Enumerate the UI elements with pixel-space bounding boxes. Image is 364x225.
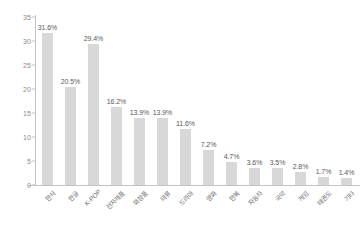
bar[interactable] [65, 87, 77, 185]
x-axis-tick-label: 태권도 [314, 188, 334, 208]
x-axis-tick-label: 국악 [272, 188, 287, 203]
bar-column[interactable]: 3.5% [272, 17, 284, 185]
bar-value-label: 16.2% [107, 98, 126, 105]
bar[interactable] [111, 107, 123, 185]
y-axis-tick-mark [32, 89, 35, 90]
bar-column[interactable]: 3.6% [249, 17, 261, 185]
bar-column[interactable]: 11.6% [180, 17, 192, 185]
bar-value-label: 13.9% [130, 109, 149, 116]
y-axis-tick-labels: 05101520253035 [0, 0, 31, 225]
x-axis-tick-label: K-POP [83, 188, 102, 207]
bar-value-label: 7.2% [201, 141, 217, 148]
bar-value-label: 11.6% [176, 120, 195, 127]
bar-value-label: 3.5% [270, 159, 286, 166]
x-axis-line [28, 185, 360, 186]
x-axis-tick-label: 한글 [65, 188, 80, 203]
x-axis-tick-label: 드라마 [176, 188, 196, 208]
y-axis-tick-mark [32, 113, 35, 114]
y-axis-tick-label: 5 [27, 158, 31, 165]
y-axis-tick-label: 35 [23, 14, 31, 21]
x-axis-tick-label: 의류 [157, 188, 172, 203]
x-axis-tick-label: 화장품 [130, 188, 150, 208]
bar-value-label: 3.6% [247, 159, 263, 166]
bar-column[interactable]: 13.9% [134, 17, 146, 185]
bar-value-label: 1.4% [339, 169, 355, 176]
bar-column[interactable]: 7.2% [203, 17, 215, 185]
bar-column[interactable]: 16.2% [111, 17, 123, 185]
y-axis-tick-mark [32, 65, 35, 66]
x-axis-tick-label: 영화 [203, 188, 218, 203]
bar[interactable] [318, 177, 330, 185]
x-axis-tick-label: 게임 [295, 188, 310, 203]
y-axis-tick-mark [32, 41, 35, 42]
bar-column[interactable]: 4.7% [226, 17, 238, 185]
bar-column[interactable]: 13.9% [157, 17, 169, 185]
bar-value-label: 20.5% [61, 78, 80, 85]
bar-column[interactable]: 31.6% [42, 17, 54, 185]
y-axis-tick-label: 0 [27, 182, 31, 189]
bar[interactable] [203, 150, 215, 185]
bar[interactable] [157, 118, 169, 185]
bar-value-label: 29.4% [84, 35, 103, 42]
y-axis-tick-label: 10 [23, 134, 31, 141]
bar[interactable] [341, 178, 353, 185]
bar[interactable] [295, 172, 307, 185]
bar-value-label: 13.9% [153, 109, 172, 116]
y-axis-tick-label: 25 [23, 62, 31, 69]
bar-chart: 05101520253035 31.6%20.5%29.4%16.2%13.9%… [0, 0, 364, 225]
bar-column[interactable]: 2.8% [295, 17, 307, 185]
x-axis-tick-label: 기타 [341, 188, 356, 203]
y-axis-tick-mark [32, 17, 35, 18]
bar-value-label: 4.7% [224, 153, 240, 160]
bar[interactable] [88, 44, 100, 185]
x-axis-tick-label: 자동차 [245, 188, 265, 208]
plot-area: 31.6%20.5%29.4%16.2%13.9%13.9%11.6%7.2%4… [36, 17, 358, 185]
y-axis-tick-label: 20 [23, 86, 31, 93]
y-axis-tick-mark [32, 161, 35, 162]
bar[interactable] [134, 118, 146, 185]
bar[interactable] [180, 129, 192, 185]
bar-value-label: 2.8% [293, 163, 309, 170]
bar-column[interactable]: 20.5% [65, 17, 77, 185]
bar[interactable] [226, 162, 238, 185]
bar-value-label: 1.7% [316, 168, 332, 175]
x-axis-tick-label: 한복 [226, 188, 241, 203]
y-axis-tick-label: 30 [23, 38, 31, 45]
y-axis-tick-label: 15 [23, 110, 31, 117]
bar[interactable] [272, 168, 284, 185]
x-axis-tick-label: 전자제품 [103, 188, 127, 212]
bar[interactable] [42, 33, 54, 185]
bar-value-label: 31.6% [38, 24, 57, 31]
bar[interactable] [249, 168, 261, 185]
y-axis-tick-mark [32, 185, 35, 186]
bar-column[interactable]: 1.7% [318, 17, 330, 185]
x-axis-tick-label: 한식 [42, 188, 57, 203]
bar-column[interactable]: 29.4% [88, 17, 100, 185]
y-axis-tick-mark [32, 137, 35, 138]
bar-column[interactable]: 1.4% [341, 17, 353, 185]
